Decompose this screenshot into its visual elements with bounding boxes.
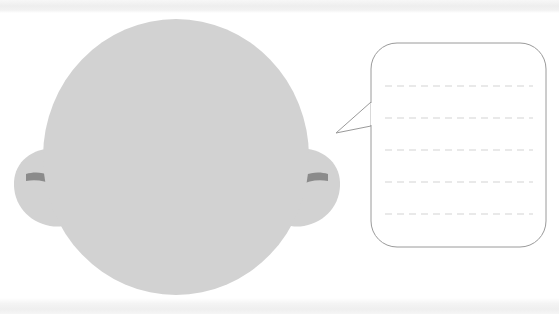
illustration-canvas: Bald head with blank speech bubble: [0, 0, 559, 314]
bottom-scan-band: [0, 298, 559, 314]
speech-bubble-tail: [336, 102, 371, 133]
top-scan-band: [0, 0, 559, 13]
speech-bubble-box[interactable]: [371, 43, 546, 247]
head-shape: [43, 19, 309, 295]
illustration-svg: [0, 0, 559, 314]
